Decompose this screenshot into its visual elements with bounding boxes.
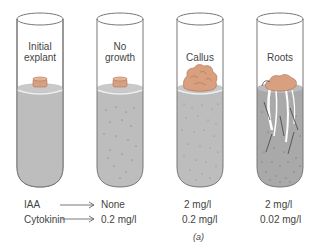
cytokinin-value-tube3: 0.2 mg/l — [182, 214, 218, 225]
cytokinin-value-tube2: 0.2 mg/l — [101, 214, 137, 225]
tube-drawing — [16, 12, 64, 188]
test-tube-roots: Roots — [256, 12, 304, 188]
tube-drawing — [96, 12, 144, 188]
test-tube-callus: Callus — [176, 12, 224, 188]
tube-label-line1: Initial — [16, 41, 64, 52]
tube-label-line2: Callus — [176, 52, 224, 63]
tube-label-line2: Roots — [256, 52, 304, 63]
iaa-value-tube4: 2 mg/l — [265, 199, 292, 210]
figure-caption: (a) — [193, 232, 204, 242]
explant-icon — [113, 77, 127, 87]
tube-label-line2: growth — [96, 52, 144, 63]
arrow-icons — [58, 199, 98, 225]
tube-label-line1: No — [96, 41, 144, 52]
tube-drawing — [176, 12, 224, 188]
test-tube-initial-explant: Initial explant — [16, 12, 64, 188]
cytokinin-value-tube4: 0.02 mg/l — [260, 214, 301, 225]
tube-label-line2: explant — [16, 52, 64, 63]
tube-drawing — [256, 12, 304, 188]
explant-icon — [33, 77, 47, 87]
iaa-value-tube2: None — [101, 199, 125, 210]
iaa-value-tube3: 2 mg/l — [184, 199, 211, 210]
iaa-label: IAA — [24, 199, 40, 210]
test-tube-no-growth: No growth — [96, 12, 144, 188]
